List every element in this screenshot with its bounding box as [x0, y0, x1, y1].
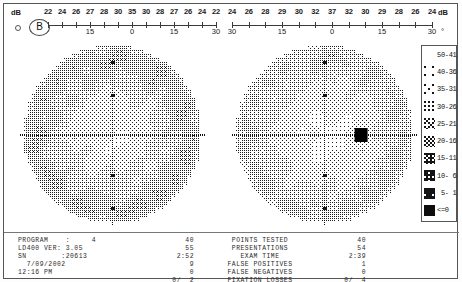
device-info-column: PROGRAM : 4LD400 VER: 3.05SN :20613 7/09…	[18, 237, 158, 277]
axis-tick	[249, 22, 250, 28]
legend-row: 40-36	[422, 63, 456, 80]
right-eye-value: 40	[322, 237, 366, 245]
legend-label: 10- 6	[437, 172, 457, 180]
right-eye-value: 1	[322, 261, 366, 269]
left-eye-value: 0	[150, 269, 194, 277]
db-value: 28	[257, 8, 273, 16]
legend-swatch	[424, 84, 435, 95]
db-value: 37	[324, 8, 340, 16]
printout-frame: B dB 222426272830353028272624221501530 2…	[3, 3, 458, 279]
db-value: 29	[374, 8, 390, 16]
degree-label: 30	[224, 28, 240, 36]
device-info-line: PROGRAM : 4	[18, 237, 158, 245]
db-value: 24	[224, 8, 240, 16]
axis-tick	[76, 22, 77, 28]
legend-row: 15-11	[422, 150, 456, 167]
axis-tick	[315, 22, 316, 28]
device-info-line: 7/09/2002	[18, 261, 158, 269]
degree-label: 30	[208, 28, 224, 36]
degree-label: 15	[374, 28, 390, 36]
degree-label: 0	[124, 28, 140, 36]
panel-divider	[4, 232, 459, 233]
legend-label: 30-26	[437, 103, 457, 111]
right-eye-value: 54	[322, 245, 366, 253]
right-eye-value: 0/ 4	[322, 277, 366, 282]
db-value: 30	[291, 8, 307, 16]
legend-row: 35-31	[422, 81, 456, 98]
right-eye-value: 2:39	[322, 253, 366, 261]
db-value: 28	[391, 8, 407, 16]
left-eye-field-plot	[20, 42, 206, 228]
left-eye-value: 40	[150, 237, 194, 245]
legend-swatch	[424, 170, 435, 181]
axis-tick	[399, 22, 400, 28]
axis-tick	[146, 22, 147, 28]
db-value: 26	[241, 8, 257, 16]
legend-row: <=0	[422, 202, 456, 219]
parameter-label: FIXATION LOSSES	[200, 277, 320, 282]
parameter-label: FALSE POSITIVES	[200, 261, 320, 269]
db-value: 26	[407, 8, 423, 16]
db-value: 22	[208, 8, 224, 16]
legend-row: 10- 6	[422, 167, 456, 184]
legend-label: <=0	[437, 206, 449, 214]
left-eye-scale: 222426272830353028272624221501530	[48, 4, 216, 38]
axis-tick	[188, 22, 189, 28]
legend-swatch	[424, 188, 435, 199]
degree-label: 15	[166, 28, 182, 36]
axis-tick	[265, 22, 266, 28]
right-deg-unit: °	[441, 27, 444, 36]
parameter-label: EXAM TIME	[200, 253, 320, 261]
legend-label: 5- 1	[437, 189, 457, 197]
right-eye-field-plot	[232, 42, 418, 228]
eye-marker-icon	[15, 25, 21, 31]
parameter-label: FALSE NEGATIVES	[200, 269, 320, 277]
left-eye-value: 9	[150, 261, 194, 269]
right-eye-scale: 24262829303237323029282624301501530	[232, 4, 432, 38]
test-parameters-panel: PROGRAM : 4LD400 VER: 3.05SN :20613 7/09…	[4, 235, 459, 279]
left-db-unit: dB	[11, 8, 21, 17]
parameter-label: PRESENTATIONS	[200, 245, 320, 253]
legend-label: 15-11	[437, 154, 457, 162]
legend-swatch	[424, 136, 435, 147]
axis-tick	[202, 22, 203, 28]
parameter-labels-column: POINTS TESTEDPRESENTATIONSEXAM TIMEFALSE…	[200, 237, 320, 282]
legend-swatch	[424, 66, 435, 77]
right-eye-value: 0	[322, 269, 366, 277]
axis-tick	[299, 22, 300, 28]
device-info-line: SN :20613	[18, 253, 158, 261]
legend-row: 5- 1	[422, 184, 456, 201]
left-eye-value: 2:52	[150, 253, 194, 261]
legend-label: 35-31	[437, 85, 457, 93]
axis-tick	[48, 22, 49, 28]
legend-swatch	[424, 49, 435, 60]
printout-sheet: B dB 222426272830353028272624221501530 2…	[0, 0, 462, 282]
axis-tick	[118, 22, 119, 28]
parameter-label: POINTS TESTED	[200, 237, 320, 245]
legend-label: 40-36	[437, 68, 457, 76]
degree-label: 30	[424, 28, 440, 36]
axis-tick	[160, 22, 161, 28]
legend-row: 25-21	[422, 115, 456, 132]
degree-label: 15	[82, 28, 98, 36]
legend-label: 20-16	[437, 137, 457, 145]
scale-band: B dB 222426272830353028272624221501530 2…	[4, 4, 459, 38]
db-value: 32	[341, 8, 357, 16]
legend-label: 50-41	[437, 51, 457, 59]
axis-tick	[365, 22, 366, 28]
left-eye-values-column: 40552:52900/ 2	[150, 237, 194, 282]
left-eye-value: 55	[150, 245, 194, 253]
legend-swatch	[424, 118, 435, 129]
legend-label: 25-21	[437, 120, 457, 128]
legend-swatch	[424, 205, 435, 216]
legend-swatch	[424, 153, 435, 164]
legend-row: 30-26	[422, 98, 456, 115]
degree-label: 15	[274, 28, 290, 36]
right-eye-values-column: 40542:39100/ 4	[322, 237, 366, 282]
axis-tick	[62, 22, 63, 28]
right-db-unit: dB	[438, 8, 448, 17]
grayscale-legend: 50-4140-3635-3130-2625-2120-1615-1110- 6…	[421, 45, 457, 222]
device-info-line: 12:16 PM	[18, 269, 158, 277]
axis-tick	[104, 22, 105, 28]
db-value: 30	[357, 8, 373, 16]
